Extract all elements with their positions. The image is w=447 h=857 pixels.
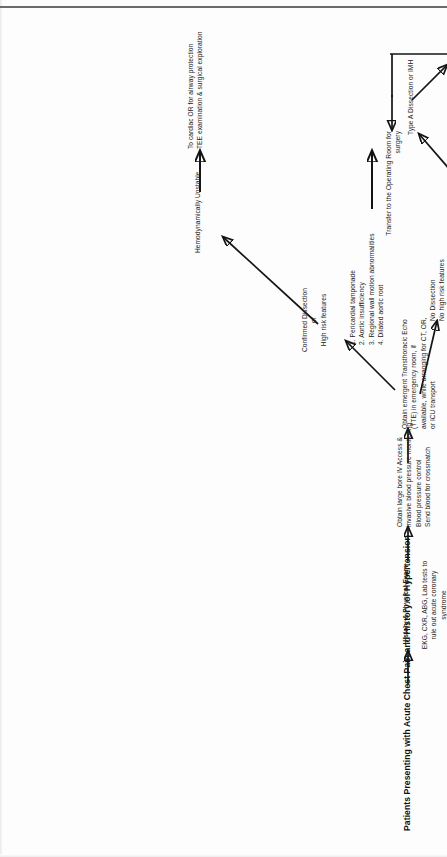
node-cardiac-or: To cardiac OR for airway protection TEE … [186,3,205,149]
edge-ct-to-typea [419,134,447,171]
node-hemodynamically-unstable: Hemodynamically Unstable [193,153,202,253]
history-exam-heading: History & Physical Exam [401,559,410,651]
node-type-a-dissection: Type A Dissection or IMH [406,43,415,135]
node-transfer-to-or: Transfer to the Operating Room for surge… [384,131,403,255]
edge-typea-to-consult [412,65,447,100]
node-history-physical-exam: History & Physical Exam EKG, CXR, ABG, L… [392,559,447,651]
node-tte: Obtain emergent Transthoracic Echo (TTE)… [400,311,437,429]
node-high-risk-features: 1. Pericardial tamponade 2. Aortic insuf… [348,209,385,345]
edge-tte-to-confirmed [346,341,395,390]
node-confirmed-dissection: Confirmed Dissection or High risk featur… [300,281,328,359]
history-exam-body: EKG, CXR, ABG, Lab tests to rule out acu… [421,561,447,649]
node-iv-access: Obtain large bore IV Access & invasive b… [395,421,432,527]
flowchart-connectors [0,0,447,857]
node-no-dissection: No Dissection No high risk features [428,229,447,321]
flowchart-canvas: Patients Presenting with Acute Chest Pai… [0,0,447,857]
